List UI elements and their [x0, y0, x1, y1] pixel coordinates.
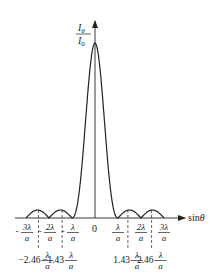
tick-label-den: a — [139, 233, 144, 243]
diffraction-diagram: Iθ I0 sinθ 0 -3λa-2λa-λaλa2λa3λa −2.46λa… — [0, 0, 219, 277]
tick-label-den: a — [71, 233, 76, 243]
secondary-max-coef: 1.43 — [113, 255, 130, 265]
tick-label-den: a — [48, 233, 53, 243]
minus-sign: - — [62, 226, 65, 236]
tick-label-num: λ — [70, 222, 75, 232]
secondary-max-coef: −2.46 — [18, 255, 40, 265]
minus-sign: - — [39, 226, 42, 236]
tick-label-num: λ — [115, 222, 120, 232]
origin-label: 0 — [92, 223, 97, 234]
secondary-max-frac-num: λ — [158, 250, 163, 260]
secondary-max-coef: 2.46 — [137, 255, 154, 265]
secondary-max-coef: −1.43 — [42, 255, 64, 265]
secondary-max-frac-den: a — [69, 261, 74, 271]
tick-label-num: 2λ — [46, 222, 55, 232]
y-axis-label: Iθ I0 — [76, 22, 91, 48]
x-axis-label: sinθ — [188, 212, 205, 223]
tick-label-den: a — [162, 233, 167, 243]
secondary-max-frac-num: λ — [68, 250, 73, 260]
y-label-numerator: Iθ — [77, 22, 85, 35]
secondary-max-labels: −2.46λa−1.43λa1.43λa2.46λa — [18, 250, 166, 271]
tick-label-num: 2λ — [137, 222, 146, 232]
tick-label-num: 3λ — [22, 222, 32, 232]
tick-label-den: a — [25, 233, 30, 243]
tick-label-den: a — [116, 233, 121, 243]
y-label-denominator: I0 — [77, 35, 85, 48]
secondary-max-frac-den: a — [158, 261, 163, 271]
minus-sign: - — [16, 226, 19, 236]
tick-label-num: 3λ — [159, 222, 169, 232]
